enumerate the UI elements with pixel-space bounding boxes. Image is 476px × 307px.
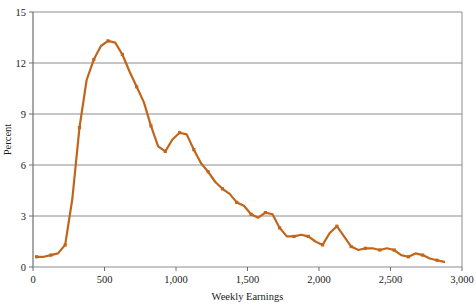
data-point	[135, 85, 138, 88]
x-tick-label-2500: 2,500	[379, 274, 403, 285]
y-tick-label-12: 12	[16, 58, 27, 69]
x-tick-label-0: 0	[30, 274, 35, 285]
x-tick-label-3000: 3,000	[450, 274, 474, 285]
data-point	[207, 170, 210, 173]
data-point	[407, 255, 410, 258]
y-tick-label-6: 6	[21, 160, 26, 171]
data-point	[307, 235, 310, 238]
data-point	[178, 131, 181, 134]
data-point	[164, 150, 167, 153]
data-point	[235, 201, 238, 204]
y-tick-label-15: 15	[16, 7, 27, 18]
y-axis-title-group: Percent	[2, 124, 13, 156]
x-tick-label-500: 500	[97, 274, 113, 285]
data-point	[335, 225, 338, 228]
data-point	[350, 245, 353, 248]
x-tick-label-1000: 1,000	[164, 274, 188, 285]
y-axis-title: Percent	[2, 124, 13, 156]
x-tick-label-1500: 1,500	[236, 274, 260, 285]
data-point	[78, 126, 81, 129]
y-tick-label-9: 9	[21, 109, 26, 120]
data-point	[292, 235, 295, 238]
data-point	[149, 124, 152, 127]
data-point	[92, 58, 95, 61]
data-point	[221, 187, 224, 190]
data-point	[121, 53, 124, 56]
x-tick-label-2000: 2,000	[307, 274, 331, 285]
data-point	[392, 248, 395, 251]
data-point	[278, 226, 281, 229]
data-point	[106, 39, 109, 42]
data-point	[192, 148, 195, 151]
plot-background	[33, 12, 462, 267]
data-point	[35, 255, 38, 258]
data-point	[264, 211, 267, 214]
chart-figure: 0369121505001,0001,5002,0002,5003,000Wee…	[0, 0, 476, 307]
data-point	[249, 213, 252, 216]
x-axis-title: Weekly Earnings	[212, 291, 284, 302]
data-point	[321, 243, 324, 246]
data-point	[364, 247, 367, 250]
data-point	[421, 254, 424, 257]
line-chart-svg: 0369121505001,0001,5002,0002,5003,000Wee…	[0, 0, 476, 307]
x-axis-ticks: 05001,0001,5002,0002,5003,000	[30, 267, 473, 285]
y-tick-label-3: 3	[21, 211, 26, 222]
data-point	[435, 259, 438, 262]
data-point	[378, 248, 381, 251]
data-point	[49, 254, 52, 257]
y-axis-ticks: 03691215	[16, 7, 34, 273]
y-tick-label-0: 0	[21, 262, 26, 273]
chart-plot-area: 0369121505001,0001,5002,0002,5003,000Wee…	[0, 0, 476, 307]
data-point	[64, 243, 67, 246]
